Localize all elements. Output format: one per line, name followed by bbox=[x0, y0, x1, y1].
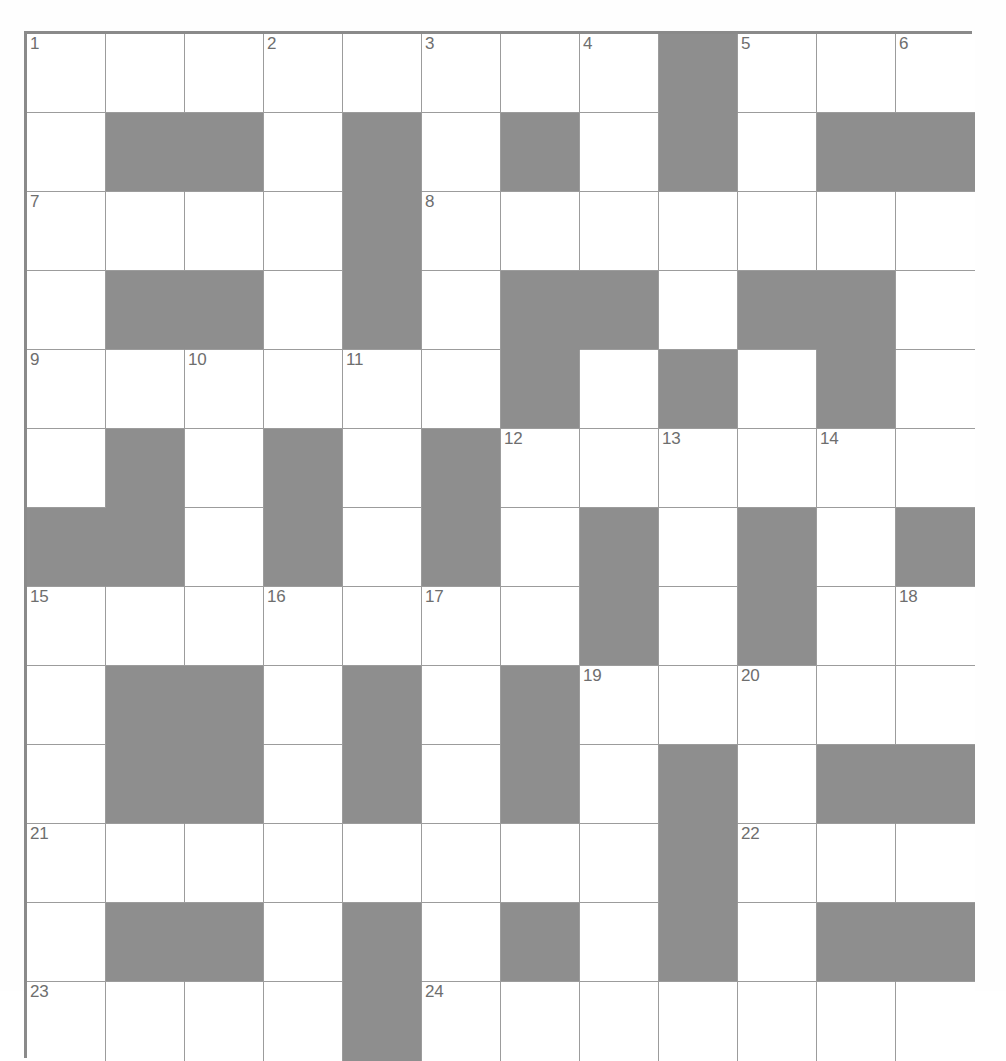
crossword-cell[interactable] bbox=[580, 824, 659, 903]
crossword-cell[interactable]: 22 bbox=[738, 824, 817, 903]
crossword-cell[interactable] bbox=[659, 271, 738, 350]
crossword-cell[interactable] bbox=[264, 192, 343, 271]
crossword-cell[interactable] bbox=[501, 824, 580, 903]
crossword-cell[interactable] bbox=[185, 587, 264, 666]
crossword-cell[interactable] bbox=[185, 508, 264, 587]
crossword-cell[interactable] bbox=[106, 350, 185, 429]
crossword-cell[interactable] bbox=[817, 982, 896, 1061]
crossword-cell[interactable] bbox=[27, 745, 106, 824]
crossword-cell[interactable]: 20 bbox=[738, 666, 817, 745]
crossword-cell[interactable] bbox=[501, 192, 580, 271]
crossword-cell[interactable] bbox=[264, 113, 343, 192]
crossword-cell[interactable] bbox=[106, 587, 185, 666]
crossword-cell[interactable]: 19 bbox=[580, 666, 659, 745]
crossword-cell[interactable]: 23 bbox=[27, 982, 106, 1061]
crossword-cell[interactable] bbox=[659, 508, 738, 587]
crossword-cell[interactable] bbox=[422, 903, 501, 982]
crossword-cell[interactable] bbox=[817, 587, 896, 666]
crossword-cell[interactable] bbox=[422, 350, 501, 429]
crossword-cell[interactable] bbox=[264, 824, 343, 903]
crossword-cell[interactable] bbox=[106, 34, 185, 113]
crossword-cell[interactable]: 8 bbox=[422, 192, 501, 271]
crossword-cell[interactable] bbox=[422, 113, 501, 192]
crossword-cell[interactable] bbox=[422, 824, 501, 903]
crossword-cell[interactable]: 2 bbox=[264, 34, 343, 113]
crossword-cell[interactable] bbox=[738, 192, 817, 271]
crossword-grid[interactable]: 123456789101112131415161718192021222324 bbox=[24, 31, 972, 1058]
crossword-cell[interactable] bbox=[896, 666, 975, 745]
crossword-cell[interactable] bbox=[264, 982, 343, 1061]
crossword-cell[interactable] bbox=[106, 192, 185, 271]
crossword-cell[interactable] bbox=[817, 192, 896, 271]
crossword-cell[interactable] bbox=[343, 429, 422, 508]
crossword-cell[interactable] bbox=[580, 982, 659, 1061]
crossword-cell[interactable]: 17 bbox=[422, 587, 501, 666]
crossword-cell[interactable] bbox=[659, 666, 738, 745]
crossword-cell[interactable] bbox=[422, 745, 501, 824]
crossword-cell[interactable] bbox=[896, 271, 975, 350]
crossword-cell[interactable] bbox=[817, 508, 896, 587]
crossword-cell[interactable] bbox=[264, 745, 343, 824]
crossword-cell[interactable] bbox=[896, 824, 975, 903]
crossword-cell[interactable]: 6 bbox=[896, 34, 975, 113]
crossword-cell[interactable] bbox=[27, 666, 106, 745]
crossword-cell[interactable] bbox=[27, 429, 106, 508]
crossword-cell[interactable] bbox=[896, 429, 975, 508]
crossword-cell[interactable] bbox=[738, 745, 817, 824]
crossword-cell[interactable] bbox=[106, 982, 185, 1061]
crossword-cell[interactable] bbox=[185, 429, 264, 508]
crossword-cell[interactable]: 4 bbox=[580, 34, 659, 113]
crossword-cell[interactable] bbox=[264, 903, 343, 982]
crossword-cell[interactable]: 5 bbox=[738, 34, 817, 113]
crossword-cell[interactable]: 11 bbox=[343, 350, 422, 429]
crossword-cell[interactable]: 10 bbox=[185, 350, 264, 429]
crossword-cell[interactable] bbox=[501, 982, 580, 1061]
crossword-cell[interactable] bbox=[27, 113, 106, 192]
crossword-cell[interactable]: 15 bbox=[27, 587, 106, 666]
crossword-cell[interactable] bbox=[343, 824, 422, 903]
crossword-cell[interactable]: 3 bbox=[422, 34, 501, 113]
crossword-cell[interactable] bbox=[185, 192, 264, 271]
crossword-cell[interactable]: 18 bbox=[896, 587, 975, 666]
crossword-cell[interactable] bbox=[264, 350, 343, 429]
crossword-cell[interactable]: 12 bbox=[501, 429, 580, 508]
crossword-cell[interactable] bbox=[264, 271, 343, 350]
crossword-cell[interactable] bbox=[738, 982, 817, 1061]
crossword-cell[interactable]: 16 bbox=[264, 587, 343, 666]
crossword-cell[interactable] bbox=[580, 192, 659, 271]
crossword-cell[interactable] bbox=[343, 587, 422, 666]
crossword-cell[interactable] bbox=[343, 34, 422, 113]
crossword-cell[interactable] bbox=[27, 903, 106, 982]
crossword-cell[interactable] bbox=[343, 508, 422, 587]
crossword-cell[interactable] bbox=[501, 34, 580, 113]
crossword-cell[interactable] bbox=[659, 982, 738, 1061]
crossword-cell[interactable] bbox=[896, 350, 975, 429]
crossword-cell[interactable] bbox=[738, 903, 817, 982]
crossword-cell[interactable] bbox=[580, 350, 659, 429]
crossword-cell[interactable] bbox=[27, 271, 106, 350]
crossword-cell[interactable] bbox=[896, 982, 975, 1061]
crossword-cell[interactable] bbox=[580, 903, 659, 982]
crossword-cell[interactable] bbox=[264, 666, 343, 745]
crossword-cell[interactable] bbox=[738, 113, 817, 192]
crossword-cell[interactable] bbox=[422, 666, 501, 745]
crossword-cell[interactable] bbox=[659, 587, 738, 666]
crossword-cell[interactable] bbox=[185, 824, 264, 903]
crossword-cell[interactable]: 14 bbox=[817, 429, 896, 508]
crossword-cell[interactable] bbox=[817, 666, 896, 745]
crossword-cell[interactable]: 9 bbox=[27, 350, 106, 429]
crossword-cell[interactable] bbox=[106, 824, 185, 903]
crossword-cell[interactable] bbox=[185, 34, 264, 113]
crossword-cell[interactable] bbox=[580, 113, 659, 192]
crossword-cell[interactable] bbox=[659, 192, 738, 271]
crossword-cell[interactable]: 7 bbox=[27, 192, 106, 271]
crossword-cell[interactable] bbox=[817, 824, 896, 903]
crossword-cell[interactable]: 21 bbox=[27, 824, 106, 903]
crossword-cell[interactable]: 1 bbox=[27, 34, 106, 113]
crossword-cell[interactable] bbox=[580, 745, 659, 824]
crossword-cell[interactable] bbox=[422, 271, 501, 350]
crossword-cell[interactable] bbox=[896, 192, 975, 271]
crossword-cell[interactable] bbox=[817, 34, 896, 113]
crossword-cell[interactable] bbox=[185, 982, 264, 1061]
crossword-cell[interactable]: 24 bbox=[422, 982, 501, 1061]
